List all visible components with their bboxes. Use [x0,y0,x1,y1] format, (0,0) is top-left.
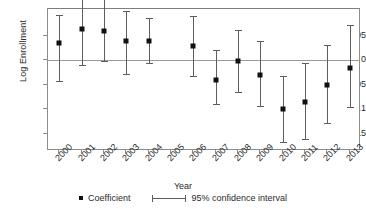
confidence-interval-cap [146,63,153,64]
confidence-interval-cap [101,61,108,62]
legend-item-confidence-interval: 95% confidence interval [152,193,287,203]
confidence-interval-bar [82,0,83,65]
confidence-interval-cap [324,45,331,46]
coefficient-point [146,38,151,43]
confidence-interval-cap [56,81,63,82]
confidence-interval-cap [190,76,197,77]
legend-label-coefficient: Coefficient [88,193,130,203]
legend-item-coefficient: Coefficient [79,193,130,203]
coefficient-plot-figure: Log Enrollment .050-.05-.1-.15 200020012… [0,0,366,209]
confidence-interval-cap [213,104,220,105]
x-axis-title: Year [0,181,366,191]
zero-reference-line [48,60,359,61]
confidence-interval-marker-icon [152,195,186,202]
confidence-interval-cap [257,106,264,107]
confidence-interval-cap [123,11,130,12]
plot-area [47,8,360,150]
coefficient-point [191,43,196,48]
confidence-interval-bar [59,15,60,82]
coefficient-point [280,107,285,112]
confidence-interval-cap [79,65,86,66]
coefficient-point [347,65,352,70]
coefficient-point [79,26,84,31]
coefficient-point [124,38,129,43]
coefficient-point [213,78,218,83]
confidence-interval-cap [190,16,197,17]
confidence-interval-cap [347,25,354,26]
legend-label-confidence: 95% confidence interval [191,193,287,203]
confidence-interval-cap [280,76,287,77]
confidence-interval-cap [56,15,63,16]
confidence-interval-cap [302,139,309,140]
confidence-interval-cap [235,92,242,93]
confidence-interval-cap [146,18,153,19]
confidence-interval-cap [123,74,130,75]
coefficient-point [258,73,263,78]
y-axis-title: Log Enrollment [18,0,28,111]
chart-legend: Coefficient 95% confidence interval [0,193,366,203]
confidence-interval-cap [235,30,242,31]
confidence-interval-cap [257,41,264,42]
coefficient-point [325,82,330,87]
top-clipped-artifact [300,0,326,3]
confidence-interval-cap [347,107,354,108]
coefficient-point [57,41,62,46]
confidence-interval-cap [280,142,287,143]
coefficient-point [236,59,241,64]
coefficient-marker-icon [79,196,83,200]
confidence-interval-cap [324,123,331,124]
confidence-interval-cap [302,63,309,64]
coefficient-point [101,29,106,34]
confidence-interval-cap [213,50,220,51]
coefficient-point [303,100,308,105]
